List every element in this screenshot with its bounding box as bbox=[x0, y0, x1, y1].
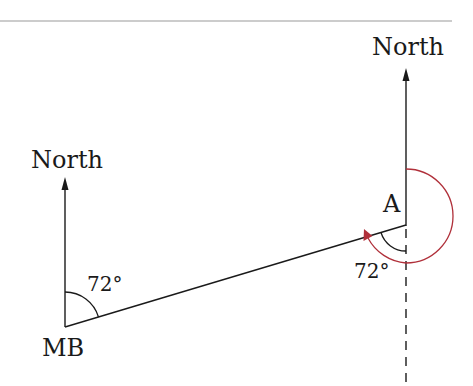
angle-label-a: 72° bbox=[354, 259, 389, 283]
point-label-a: A bbox=[382, 190, 401, 218]
north-arrowhead-mb-icon bbox=[62, 177, 69, 190]
point-label-mb: MB bbox=[42, 334, 84, 362]
bearing-arc-a bbox=[368, 169, 453, 263]
north-label-left: North bbox=[31, 146, 103, 174]
north-label-right: North bbox=[372, 33, 444, 61]
angle-label-mb: 72° bbox=[87, 272, 122, 296]
angle-arc-a bbox=[381, 233, 406, 252]
north-arrowhead-a-icon bbox=[403, 68, 410, 81]
bearing-diagram: North North A MB 72° 72° bbox=[0, 0, 473, 386]
